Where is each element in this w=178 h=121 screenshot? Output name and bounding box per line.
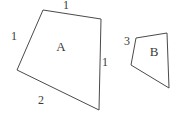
shape-a-name-label: A (56, 40, 65, 53)
shape-b-polygon (131, 33, 169, 88)
shape-a-polygon (17, 10, 101, 110)
shape-a-side-label-top: 1 (63, 0, 69, 11)
shape-a-side-label-bottom: 2 (38, 94, 44, 106)
shape-b-side-label-upper-left: 3 (124, 35, 130, 47)
shape-a-side-label-right: 1 (102, 56, 108, 68)
geometry-figure: 1 1 1 2 A 3 B (0, 0, 178, 121)
shape-a-side-label-left: 1 (11, 30, 17, 42)
shapes-canvas (0, 0, 178, 121)
shape-b-name-label: B (150, 45, 159, 58)
